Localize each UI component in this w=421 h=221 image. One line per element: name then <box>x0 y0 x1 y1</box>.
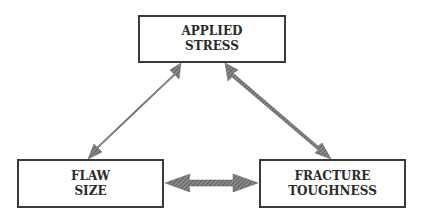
node-label-line: APPLIED <box>182 24 243 39</box>
node-flaw-size: FLAW SIZE <box>17 159 164 208</box>
node-label-line: FLAW <box>71 169 110 184</box>
arrow-stress-toughness <box>225 63 331 159</box>
node-label-line: TOUGHNESS <box>288 184 377 199</box>
node-label-line: STRESS <box>185 39 239 54</box>
arrow-flaw-toughness <box>165 174 258 192</box>
node-label-line: FRACTURE <box>295 169 371 184</box>
node-label-line: SIZE <box>74 184 106 199</box>
node-fracture-toughness: FRACTURE TOUGHNESS <box>259 159 406 208</box>
node-applied-stress: APPLIED STRESS <box>138 15 286 63</box>
arrow-stress-flaw <box>88 63 181 159</box>
